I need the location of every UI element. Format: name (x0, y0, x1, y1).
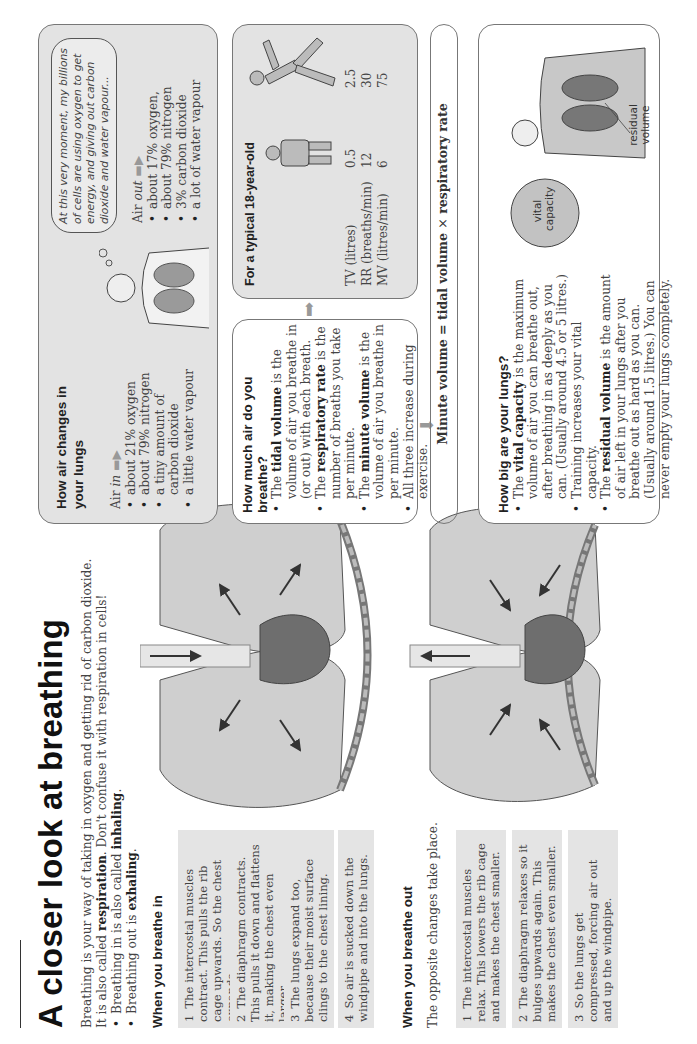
lung-size-box: How big are your lungs? The vital capaci… (478, 24, 660, 524)
breathe-in-heading: When you breathe in (150, 895, 165, 1028)
breathe-out-step-2: 2The diaphragm relaxes so it bulges upwa… (512, 830, 562, 1028)
breathe-out-step-3: 3So the lungs get compressed, forcing ai… (568, 830, 618, 1028)
exhale-diagram (410, 508, 600, 802)
air-in-list: Air in ▬▶ about 21% oxygen about 79% nit… (109, 349, 197, 509)
how-much-air-heading: How much air do you breathe? (241, 323, 270, 513)
table-row: TV (litres)0.52.5 (343, 69, 359, 286)
lung-size-bullet: Training increases your vital capacity. (570, 273, 599, 499)
air-out-item: about 17% oxygen, (146, 33, 161, 209)
intro-bullet: Breathing in is also called inhaling. (110, 468, 125, 1014)
intro-paragraph: Breathing is your way of taking in oxyge… (80, 468, 140, 1028)
resting-person-icon (263, 128, 333, 178)
air-changes-box: How air changes in your lungs Air in ▬▶ … (38, 24, 218, 524)
intro-line-1: Breathing is your way of taking in oxyge… (80, 468, 95, 1028)
lung-diagrams (140, 490, 640, 830)
breathe-in-step-4: 4So air is sucked down the windpipe and … (338, 830, 374, 1028)
breathe-out-step-1: 1The intercostal muscles relax. This low… (456, 830, 506, 1028)
breathe-out-intro: The opposite changes take place. (426, 822, 441, 1028)
air-in-label: Air in ▬▶ (109, 349, 124, 509)
residual-volume-label: residual volume (627, 95, 651, 155)
intro-bullet: Breathing out is exhaling. (125, 468, 140, 1014)
minute-volume-formula: Minute volume = tidal volume × respirato… (430, 24, 458, 524)
how-much-bullet: All three increase during exercise. (402, 323, 431, 499)
how-much-air-content: How much air do you breathe? The tidal v… (241, 323, 431, 513)
how-much-bullet: The tidal volume is the volume of air yo… (270, 323, 314, 499)
breathe-out-heading: When you breathe out (400, 886, 415, 1028)
arrow-right-icon: ➡ (298, 302, 319, 317)
how-much-bullet: The minute volume is the volume of air y… (358, 323, 402, 499)
lung-size-bullet: The residual volume is the amount of air… (599, 273, 672, 499)
air-in-item: about 79% nitrogen (138, 349, 153, 495)
running-person-icon (245, 28, 340, 98)
lung-size-content: How big are your lungs? The vital capaci… (497, 273, 672, 513)
air-out-item: a lot of water vapour (189, 33, 204, 209)
inhale-diagram (140, 504, 368, 807)
thought-bubble: At this very moment, my billions of cell… (51, 38, 117, 233)
textbook-page: A closer look at breathing Breathing is … (0, 0, 697, 1044)
table-row: MV (litres/min)675 (375, 69, 391, 286)
air-out-label: Air out ▬▶ (131, 33, 146, 223)
air-in-item: a little water vapour (182, 349, 197, 495)
typical-values-box: For a typical 18-year-old TV (litres)0.5… (232, 24, 418, 299)
air-out-item: about 79% nitrogen (160, 33, 175, 209)
air-changes-heading: How air changes in your lungs (53, 359, 87, 509)
air-out-item: 3% carbon dioxide (175, 33, 190, 209)
typical-heading: For a typical 18-year-old (243, 142, 257, 286)
arrow-up-icon: ▬▶ (131, 156, 145, 177)
table-row: RR (breaths/min)1230 (359, 69, 375, 286)
top-rule (20, 940, 21, 1028)
how-much-bullet: The respiratory rate is the number of br… (314, 323, 358, 499)
air-out-list: Air out ▬▶ about 17% oxygen, about 79% n… (131, 33, 204, 223)
lung-size-bullet: The vital capacity is the maximum volume… (512, 273, 570, 499)
air-in-item: a tiny amount of carbon dioxide (153, 349, 182, 495)
typical-values-table: TV (litres)0.52.5 RR (breaths/min)1230 M… (343, 69, 391, 286)
arrow-right-icon: ▬▶ (109, 450, 123, 471)
intro-line-2: It is also called respiration. Don't con… (95, 468, 110, 1028)
how-much-air-box: How much air do you breathe? The tidal v… (232, 319, 418, 524)
intro-bullets: Breathing in is also called inhaling. Br… (110, 468, 140, 1028)
vital-capacity-label: vital capacity (531, 191, 555, 231)
breathe-in-step-3: 3The lungs expand too, because their moi… (284, 830, 334, 1028)
lung-size-heading: How big are your lungs? (497, 273, 512, 513)
person-lungs-illustration (99, 233, 209, 343)
page-title: A closer look at breathing (32, 619, 70, 1028)
air-in-item: about 21% oxygen (124, 349, 139, 495)
